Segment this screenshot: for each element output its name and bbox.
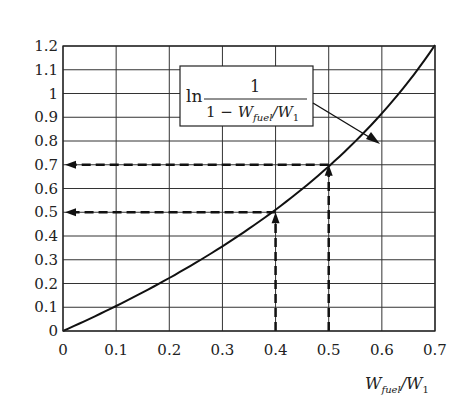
y-tick-label: 0.6	[34, 180, 58, 198]
x-axis-ticks: 00.10.20.30.40.50.60.7	[58, 341, 447, 359]
y-tick-label: 0.3	[34, 251, 58, 269]
formula-label-box: ln 1 1 − Wfuel/W1	[180, 66, 380, 144]
y-tick-label: 0	[48, 322, 58, 340]
formula-pointer-arrowhead	[366, 132, 380, 144]
y-tick-label: 1	[48, 85, 58, 103]
x-tick-label: 0.3	[210, 341, 234, 359]
x-tick-label: 0.7	[423, 341, 447, 359]
y-tick-label: 1.2	[34, 37, 58, 55]
x-tick-label: 0.5	[317, 341, 341, 359]
x-tick-label: 0.1	[104, 341, 128, 359]
y-tick-label: 1.1	[34, 61, 58, 79]
x-tick-label: 0.2	[157, 341, 181, 359]
formula-numerator: 1	[250, 77, 260, 96]
arrowhead-up	[272, 212, 280, 223]
y-tick-label: 0.2	[34, 275, 58, 293]
y-tick-label: 0.4	[34, 227, 58, 245]
arrowhead-left	[65, 161, 76, 169]
y-tick-label: 0.8	[34, 132, 58, 150]
formula-denominator: 1 − Wfuel/W1	[206, 103, 299, 123]
formula-ln: ln	[186, 86, 202, 106]
y-tick-label: 0.5	[34, 203, 58, 221]
line-chart: 00.10.20.30.40.50.60.70.80.911.11.2 00.1…	[0, 0, 474, 417]
x-tick-label: 0.4	[264, 341, 288, 359]
arrowhead-left	[65, 208, 76, 216]
formula-pointer-line	[313, 103, 374, 140]
dashed-guide-arrows	[65, 161, 333, 331]
y-tick-label: 0.7	[34, 156, 58, 174]
x-tick-label: 0.6	[370, 341, 394, 359]
x-axis-label: Wfuel/W1	[365, 374, 429, 395]
y-tick-label: 0.9	[34, 108, 58, 126]
y-tick-label: 0.1	[34, 298, 58, 316]
x-tick-label: 0	[58, 341, 68, 359]
y-axis-ticks: 00.10.20.30.40.50.60.70.80.911.11.2	[34, 37, 58, 340]
